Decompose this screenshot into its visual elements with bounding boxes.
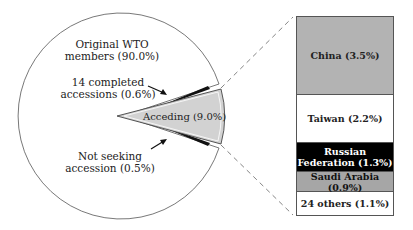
connector-line-bottom [221,145,293,215]
label-completed-accessions: 14 completed accessions (0.6%) [58,76,158,100]
bar-segment-russia: Russian Federation (1.3%) [296,143,394,172]
bar-segment-taiwan: Taiwan (2.2%) [296,95,394,143]
label-original-line1: Original WTO [62,38,162,50]
label-original-line2: members (90.0%) [62,50,162,62]
segment-label-saudi: Saudi Arabia (0.9%) [297,171,393,193]
connector-line-top [221,17,293,88]
segment-label-china: China (3.5%) [311,50,380,61]
label-original-members: Original WTO members (90.0%) [62,38,162,62]
segment-label-russia-line1: Russian [324,146,366,157]
label-notseeking-line2: accession (0.5%) [60,162,160,174]
segment-label-russia-line2: Federation (1.3%) [297,157,392,168]
bar-segment-others: 24 others (1.1%) [296,192,394,216]
label-notseeking-line1: Not seeking [60,150,160,162]
bar-segment-china: China (3.5%) [296,16,394,95]
bar-segment-saudi-arabia: Saudi Arabia (0.9%) [296,172,394,192]
label-completed-line1: 14 completed [58,76,158,88]
segment-label-others: 24 others (1.1%) [301,198,389,209]
label-completed-line2: accessions (0.6%) [58,88,158,100]
label-not-seeking: Not seeking accession (0.5%) [60,150,160,174]
segment-label-taiwan: Taiwan (2.2%) [307,113,382,124]
label-acceding: Acceding (9.0%) [143,111,223,123]
